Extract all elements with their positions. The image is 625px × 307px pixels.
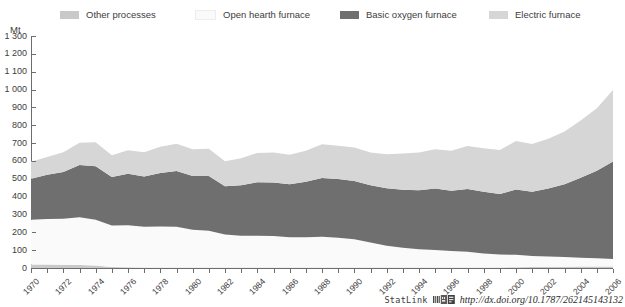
y-tick-mark: [32, 54, 36, 55]
x-tick-mark: [532, 269, 533, 273]
y-tick-label: 1 000: [4, 85, 27, 94]
x-tick-mark: [290, 269, 291, 273]
y-tick-label: 200: [12, 228, 27, 237]
x-tick-mark: [338, 269, 339, 273]
statlink-row[interactable]: StatLink http://dx.doi.org/10.1787/26214…: [384, 294, 623, 305]
x-tick-mark: [581, 269, 582, 273]
x-tick-mark: [193, 269, 194, 273]
x-tick-mark: [225, 269, 226, 273]
x-tick-mark: [500, 269, 501, 273]
y-tick-mark: [32, 72, 36, 73]
legend-label-open-hearth-furnace: Open hearth furnace: [223, 10, 310, 20]
stacked-area-plot: [31, 36, 613, 268]
x-tick-mark: [387, 269, 388, 273]
x-tick-mark: [128, 269, 129, 273]
x-tick-mark: [516, 269, 517, 273]
statlink-label: StatLink: [384, 295, 427, 305]
x-tick-mark: [597, 269, 598, 273]
x-tick-mark: [548, 269, 549, 273]
legend-label-other-processes: Other processes: [86, 10, 156, 20]
x-tick-mark: [160, 269, 161, 273]
legend-item-other-processes: Other processes: [60, 6, 156, 24]
y-tick-mark: [32, 214, 36, 215]
y-tick-label: 1 200: [4, 49, 27, 58]
x-tick-mark: [241, 269, 242, 273]
x-tick-mark: [403, 269, 404, 273]
y-tick-label: 800: [12, 121, 27, 130]
y-axis-tick-labels: 01002003004005006007008009001 0001 1001 …: [0, 24, 31, 279]
x-tick-mark: [31, 269, 32, 273]
y-tick-label: 100: [12, 246, 27, 255]
legend-item-electric-furnace: Electric furnace: [489, 6, 580, 24]
statlink-url[interactable]: http://dx.doi.org/10.1787/262145143132: [460, 294, 623, 305]
x-tick-mark: [435, 269, 436, 273]
y-tick-mark: [32, 179, 36, 180]
x-tick-mark: [468, 269, 469, 273]
x-tick-mark: [354, 269, 355, 273]
y-tick-label: 600: [12, 156, 27, 165]
x-tick-mark: [112, 269, 113, 273]
legend-swatch-other-processes: [60, 11, 79, 19]
x-tick-mark: [257, 269, 258, 273]
y-tick-label: 700: [12, 139, 27, 148]
x-tick-mark: [371, 269, 372, 273]
legend-swatch-open-hearth-furnace: [195, 10, 216, 20]
x-tick-mark: [565, 269, 566, 273]
y-tick-mark: [32, 268, 36, 269]
legend-label-electric-furnace: Electric furnace: [515, 10, 580, 20]
x-tick-mark: [80, 269, 81, 273]
chart-plot-area: Mt 01002003004005006007008009001 0001 10…: [0, 24, 625, 279]
y-tick-label: 1 100: [4, 67, 27, 76]
y-tick-mark: [32, 36, 36, 37]
y-tick-mark: [32, 125, 36, 126]
x-tick-mark: [209, 269, 210, 273]
y-tick-mark: [32, 250, 36, 251]
y-tick-label: 1 300: [4, 32, 27, 41]
y-tick-label: 300: [12, 210, 27, 219]
x-tick-mark: [274, 269, 275, 273]
y-tick-mark: [32, 107, 36, 108]
x-tick-mark: [419, 269, 420, 273]
legend-swatch-basic-oxygen-furnace: [340, 11, 359, 19]
x-tick-mark: [322, 269, 323, 273]
legend-item-basic-oxygen-furnace: Basic oxygen furnace: [340, 6, 457, 24]
x-tick-mark: [484, 269, 485, 273]
chart-legend: Other processes Open hearth furnace Basi…: [0, 6, 625, 24]
y-tick-label: 900: [12, 103, 27, 112]
x-tick-mark: [96, 269, 97, 273]
y-tick-label: 0: [22, 264, 27, 273]
x-tick-mark: [451, 269, 452, 273]
legend-label-basic-oxygen-furnace: Basic oxygen furnace: [366, 10, 457, 20]
y-tick-mark: [32, 232, 36, 233]
x-tick-mark: [144, 269, 145, 273]
legend-swatch-electric-furnace: [489, 11, 508, 19]
y-tick-mark: [32, 143, 36, 144]
x-tick-mark: [306, 269, 307, 273]
x-tick-mark: [613, 269, 614, 273]
legend-item-open-hearth-furnace: Open hearth furnace: [195, 6, 310, 24]
chart-footer: StatLink http://dx.doi.org/10.1787/26214…: [0, 291, 625, 305]
statlink-barcode-icon: [433, 295, 455, 304]
y-tick-mark: [32, 197, 36, 198]
y-tick-mark: [32, 90, 36, 91]
y-tick-label: 500: [12, 174, 27, 183]
x-tick-mark: [63, 269, 64, 273]
y-tick-mark: [32, 161, 36, 162]
y-tick-label: 400: [12, 192, 27, 201]
x-tick-mark: [47, 269, 48, 273]
x-tick-mark: [177, 269, 178, 273]
